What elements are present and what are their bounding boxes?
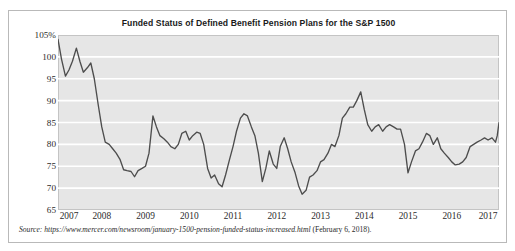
x-axis-tick-2012: 2012 <box>267 211 286 221</box>
x-axis-labels: 2007200820092010201120122013201420152016… <box>58 211 499 225</box>
source-url: https://www.mercer.com/newsroom/january-… <box>44 225 310 234</box>
source-note: Source: https://www.mercer.com/newsroom/… <box>19 225 499 234</box>
x-axis-tick-2016: 2016 <box>442 211 461 221</box>
y-axis-tick-70: 70 <box>10 183 56 193</box>
source-date: (February 6, 2018). <box>312 225 371 234</box>
x-axis-tick-2008: 2008 <box>92 211 111 221</box>
x-axis-tick-2014: 2014 <box>355 211 374 221</box>
x-axis-tick-2011: 2011 <box>224 211 242 221</box>
chart-title: Funded Status of Defined Benefit Pension… <box>9 18 508 28</box>
y-axis-tick-100: 100 <box>10 52 56 62</box>
x-axis-tick-2010: 2010 <box>180 211 199 221</box>
y-axis-tick-75: 75 <box>10 161 56 171</box>
x-axis-tick-2015: 2015 <box>399 211 418 221</box>
gridlines <box>58 57 499 188</box>
x-axis-tick-2009: 2009 <box>136 211 155 221</box>
y-axis-tick-105: 105% <box>10 30 56 40</box>
y-axis-tick-80: 80 <box>10 139 56 149</box>
source-label: Source: <box>19 225 42 234</box>
chart-figure: Funded Status of Defined Benefit Pension… <box>8 10 507 243</box>
y-axis-tick-65: 65 <box>10 205 56 215</box>
y-axis-labels: 105%10095908580757065 <box>9 35 56 210</box>
y-axis-tick-95: 95 <box>10 74 56 84</box>
plot-wrapper <box>58 35 499 210</box>
y-axis-tick-85: 85 <box>10 118 56 128</box>
series-line-funded-status <box>58 39 499 194</box>
line-chart-svg <box>58 35 499 210</box>
x-axis-tick-2007: 2007 <box>60 211 79 221</box>
x-axis-tick-2017: 2017 <box>479 211 498 221</box>
y-axis-tick-90: 90 <box>10 96 56 106</box>
x-axis-tick-2013: 2013 <box>311 211 330 221</box>
